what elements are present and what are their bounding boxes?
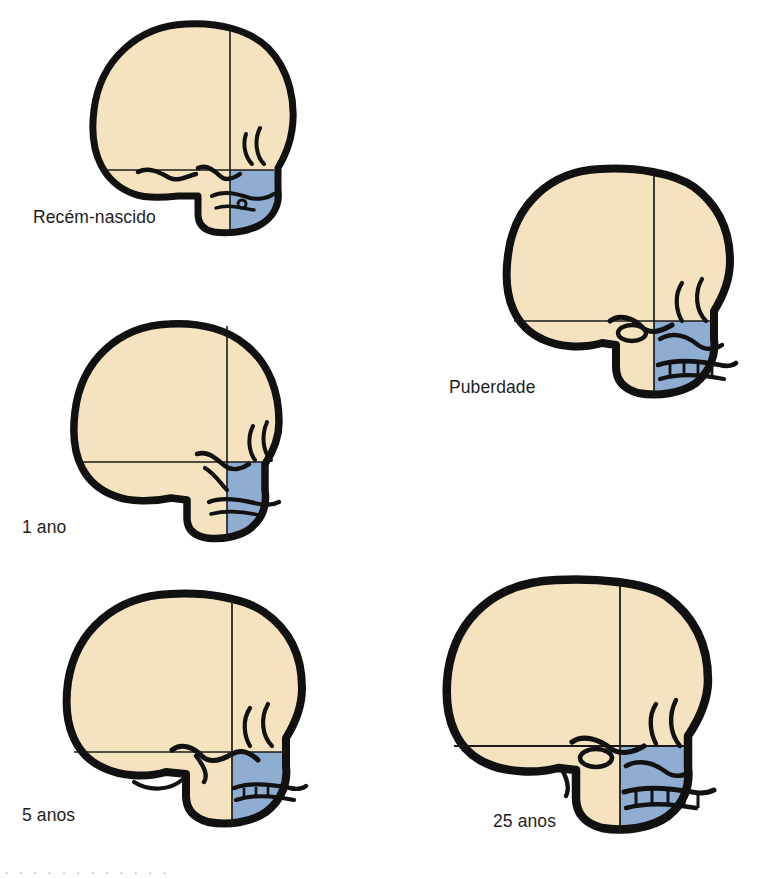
occipital-curve-fiveyear bbox=[134, 780, 182, 789]
stage-label-oneyear: 1 ano bbox=[22, 518, 66, 537]
skull-growth-figure: Recém-nascido 1 ano bbox=[0, 0, 761, 879]
stage-label-fiveyear: 5 anos bbox=[22, 806, 75, 825]
page-bottom-cut-text: · · · · · · · · · · · · bbox=[0, 869, 761, 879]
skull-diagram-adult bbox=[424, 574, 724, 842]
stage-label-adult: 25 anos bbox=[493, 812, 556, 831]
skull-diagram-puberty bbox=[492, 163, 740, 401]
skull-diagram-oneyear bbox=[57, 318, 299, 546]
bottom-cut-text-content: · · · · · · · · · · · · bbox=[4, 869, 170, 879]
stage-label-puberty: Puberdade bbox=[449, 378, 536, 397]
skull-illustration-oneyear bbox=[57, 318, 299, 546]
skull-illustration-puberty bbox=[492, 163, 740, 401]
skull-illustration-fiveyear bbox=[46, 586, 324, 834]
skull-illustration-adult bbox=[424, 574, 724, 842]
stage-label-newborn: Recém-nascido bbox=[33, 208, 156, 227]
skull-diagram-fiveyear bbox=[46, 586, 324, 834]
viscerocranium-region-oneyear bbox=[227, 462, 317, 552]
